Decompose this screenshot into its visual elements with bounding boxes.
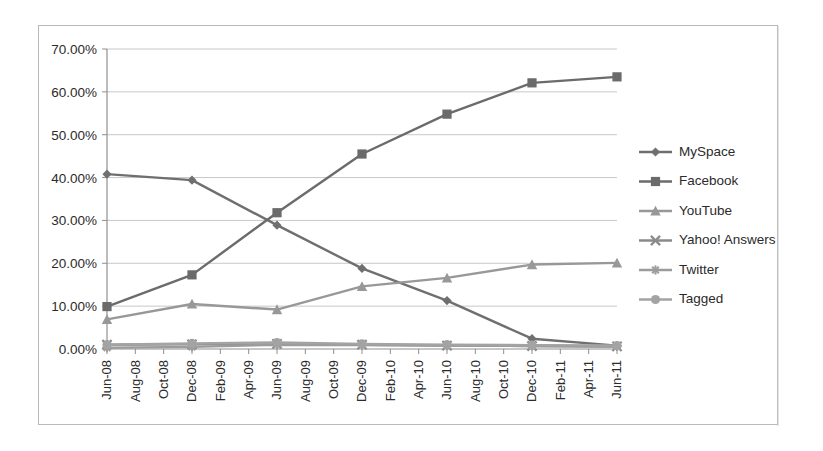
chart-frame: 70.00%60.00%50.00%40.00%30.00%20.00%10.0… <box>38 25 778 425</box>
data-point-circle <box>272 338 281 347</box>
x-tick-label: Apr-09 <box>241 360 256 399</box>
x-tick-label: Oct-09 <box>326 360 341 399</box>
y-tick-label: 10.00% <box>51 299 97 314</box>
data-point-circle <box>612 341 621 350</box>
axes <box>102 49 617 354</box>
x-tick-label: Jun-09 <box>269 360 284 400</box>
x-tick-label: Feb-09 <box>213 360 228 401</box>
x-tick-label: Jun-08 <box>99 360 114 400</box>
data-point-diamond <box>357 264 366 273</box>
series-facebook <box>102 72 621 311</box>
x-tick-label: Feb-10 <box>383 360 398 401</box>
series-layer <box>102 72 622 352</box>
y-tick-label: 60.00% <box>51 85 97 100</box>
line-chart: 70.00%60.00%50.00%40.00%30.00%20.00%10.0… <box>39 26 779 426</box>
legend-item-label: Twitter <box>679 262 719 277</box>
x-tick-label: Jun-11 <box>609 360 624 399</box>
series-myspace <box>102 170 621 351</box>
legend-item-twitter[interactable]: Twitter <box>639 262 719 277</box>
y-tick-label: 70.00% <box>51 42 97 57</box>
y-tick-label: 40.00% <box>51 171 97 186</box>
y-axis-tick-labels: 70.00%60.00%50.00%40.00%30.00%20.00%10.0… <box>51 42 97 357</box>
legend-item-label: Yahoo! Answers <box>679 232 776 247</box>
legend-item-label: Facebook <box>679 173 739 188</box>
data-point-square <box>102 302 111 311</box>
y-tick-label: 20.00% <box>51 256 97 271</box>
legend-item-label: YouTube <box>679 203 732 218</box>
legend-item-label: Tagged <box>679 291 723 306</box>
data-point-square <box>272 208 281 217</box>
data-point-circle <box>357 339 366 348</box>
data-point-square <box>187 270 196 279</box>
data-point-circle <box>187 339 196 348</box>
legend-item-yahoo-answers[interactable]: Yahoo! Answers <box>639 232 776 247</box>
x-tick-label: Dec-10 <box>524 360 539 402</box>
x-tick-label: Jun-10 <box>439 360 454 400</box>
data-point-square <box>357 149 366 158</box>
chart-legend: MySpaceFacebookYouTubeYahoo! AnswersTwit… <box>639 26 778 426</box>
x-tick-label: Aug-09 <box>298 360 313 402</box>
data-point-square <box>651 177 660 186</box>
data-point-diamond <box>272 221 281 230</box>
x-axis-tick-labels: Jun-08Aug-08Oct-08Dec-08Feb-09Apr-09Jun-… <box>99 360 624 402</box>
legend-item-tagged[interactable]: Tagged <box>639 291 723 306</box>
data-point-diamond <box>187 176 196 185</box>
x-tick-label: Oct-08 <box>156 360 171 399</box>
x-tick-label: Apr-10 <box>411 360 426 399</box>
legend-item-label: MySpace <box>679 144 735 159</box>
plot-area: 70.00%60.00%50.00%40.00%30.00%20.00%10.0… <box>39 26 777 424</box>
legend-item-myspace[interactable]: MySpace <box>639 144 735 159</box>
data-point-square <box>612 72 621 81</box>
x-tick-label: Dec-08 <box>184 360 199 402</box>
data-point-star <box>651 265 660 274</box>
data-point-circle <box>527 341 536 350</box>
data-point-diamond <box>651 147 660 156</box>
y-tick-label: 0.00% <box>59 342 97 357</box>
x-tick-label: Aug-10 <box>468 360 483 402</box>
data-point-diamond <box>442 296 451 305</box>
data-point-circle <box>442 340 451 349</box>
x-tick-label: Oct-10 <box>496 360 511 399</box>
data-point-circle <box>651 295 660 304</box>
x-tick-label: Apr-11 <box>581 360 596 398</box>
y-tick-label: 30.00% <box>51 213 97 228</box>
x-tick-label: Feb-11 <box>553 360 568 400</box>
x-tick-label: Aug-08 <box>128 360 143 402</box>
data-point-circle <box>102 340 111 349</box>
y-tick-label: 50.00% <box>51 128 97 143</box>
legend-item-facebook[interactable]: Facebook <box>639 173 739 188</box>
x-tick-label: Dec-09 <box>354 360 369 402</box>
data-point-square <box>527 78 536 87</box>
series-line <box>107 174 617 345</box>
legend-item-youtube[interactable]: YouTube <box>639 203 732 218</box>
data-point-square <box>442 110 451 119</box>
